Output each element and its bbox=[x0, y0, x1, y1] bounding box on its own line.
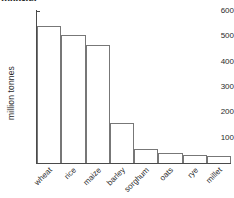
bar-wheat bbox=[37, 26, 61, 163]
bar-rice bbox=[61, 35, 85, 163]
y-axis-title: million tonnes bbox=[6, 45, 16, 141]
bar-series bbox=[37, 10, 231, 163]
bar-chart-figure: monster. million tonnes 1002003004005006… bbox=[0, 0, 234, 198]
bar-maize bbox=[86, 45, 110, 163]
clipped-caption-text: monster. bbox=[1, 0, 40, 1]
